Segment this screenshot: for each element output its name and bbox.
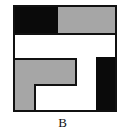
l-shape-stem	[15, 84, 36, 110]
figure-label: B	[0, 116, 125, 130]
outer-square-frame	[13, 5, 117, 112]
l-shape-inner-edge	[34, 84, 77, 86]
top-band-divider	[15, 33, 115, 35]
puzzle-figure: B	[0, 0, 125, 135]
lower-left-gray-l-shape	[15, 58, 77, 86]
right-black-bar	[96, 57, 115, 110]
top-left-black-block	[15, 7, 58, 34]
top-right-gray-block	[58, 7, 115, 33]
